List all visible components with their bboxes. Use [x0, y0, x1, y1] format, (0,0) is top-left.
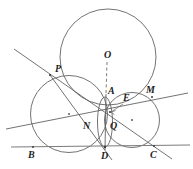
point-label-B: B — [28, 150, 35, 160]
line-P-to-D — [50, 75, 112, 160]
line-BC-base — [11, 145, 190, 147]
dashed-line-O-A — [106, 62, 107, 94]
node-concurrency — [109, 111, 111, 113]
point-label-D: D — [101, 151, 108, 161]
node-M — [151, 96, 153, 98]
point-label-E: E — [123, 93, 130, 103]
node-D — [104, 146, 106, 148]
point-label-A: A — [108, 86, 115, 96]
point-label-N: N — [83, 121, 90, 131]
line-through-P-C — [14, 49, 172, 159]
node-P — [49, 74, 51, 76]
geometry-figure: P O A M E N Q B D C — [0, 0, 193, 169]
point-label-P: P — [55, 64, 61, 74]
geometry-canvas — [0, 0, 193, 169]
center-dot-right-circle — [131, 119, 133, 121]
line-A-D-vertical — [105, 94, 106, 150]
node-C — [153, 145, 155, 147]
point-label-C: C — [150, 150, 157, 160]
node-B — [32, 146, 34, 148]
center-dot-left-circle — [68, 113, 70, 115]
point-label-Q: Q — [110, 121, 117, 131]
point-label-M: M — [146, 85, 155, 95]
point-label-O: O — [104, 50, 111, 60]
